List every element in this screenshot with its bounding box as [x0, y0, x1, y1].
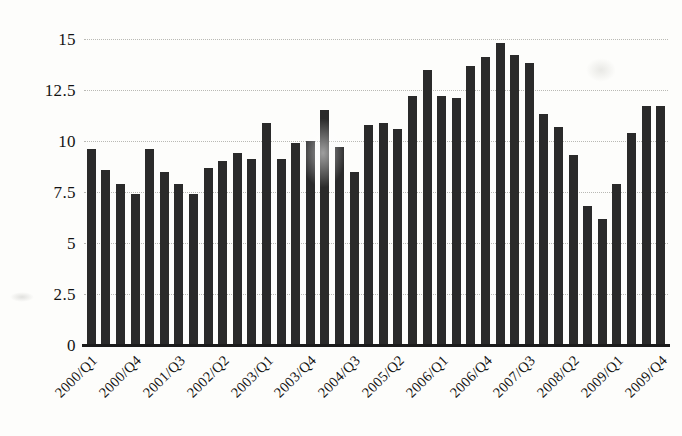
bar — [335, 147, 344, 345]
bar — [423, 70, 432, 345]
bar — [291, 143, 300, 345]
bar — [233, 153, 242, 345]
bar — [320, 110, 329, 345]
bar — [189, 194, 198, 345]
bar — [481, 57, 490, 345]
x-axis-tick-label: 2003/Q4 — [271, 352, 320, 401]
x-axis-tick-label: 2001/Q3 — [140, 352, 189, 401]
bar — [554, 127, 563, 345]
x-axis-tick-label: 2005/Q2 — [359, 352, 408, 401]
x-axis-tick-label: 2002/Q2 — [183, 352, 232, 401]
bar — [218, 161, 227, 345]
y-axis-tick-label: 10 — [14, 133, 76, 150]
y-axis-tick-label: 2.5 — [14, 286, 76, 303]
plot-area — [84, 39, 668, 345]
x-axis-tick-label: 2009/Q1 — [578, 352, 627, 401]
bar — [627, 133, 636, 345]
bar — [204, 168, 213, 345]
x-axis-tick-label: 2007/Q3 — [490, 352, 539, 401]
y-axis-tick-label: 7.5 — [14, 184, 76, 201]
bar — [160, 172, 169, 345]
bar — [379, 123, 388, 345]
x-axis-tick-label: 2000/Q4 — [96, 352, 145, 401]
bar — [393, 129, 402, 345]
bar — [510, 55, 519, 345]
bar — [145, 149, 154, 345]
bar — [174, 184, 183, 345]
bar — [277, 159, 286, 345]
y-axis-tick-label: 15 — [14, 31, 76, 48]
bar-series — [84, 39, 668, 345]
bar — [364, 125, 373, 345]
bar — [569, 155, 578, 345]
y-axis: 02.557.51012.515 — [0, 0, 76, 436]
y-axis-tick-label: 0 — [14, 337, 76, 354]
bar — [539, 114, 548, 345]
bar — [452, 98, 461, 345]
bar — [612, 184, 621, 345]
bar — [350, 172, 359, 345]
bar — [408, 96, 417, 345]
x-axis-tick-label: 2004/Q3 — [315, 352, 364, 401]
bar — [131, 194, 140, 345]
bar — [87, 149, 96, 345]
bar — [262, 123, 271, 345]
x-axis-tick-label: 2009/Q4 — [621, 352, 670, 401]
bar — [437, 96, 446, 345]
bar — [116, 184, 125, 345]
x-axis-tick-label: 2008/Q2 — [534, 352, 583, 401]
bar — [525, 63, 534, 345]
bar — [247, 159, 256, 345]
x-axis-tick-label: 2006/Q4 — [446, 352, 495, 401]
bar — [306, 141, 315, 345]
x-axis-line — [82, 344, 670, 347]
y-axis-tick-label: 12.5 — [14, 82, 76, 99]
bar — [583, 206, 592, 345]
bar — [496, 43, 505, 345]
bar — [656, 106, 665, 345]
bar — [101, 170, 110, 345]
x-axis-tick-label: 2006/Q1 — [402, 352, 451, 401]
bar — [598, 219, 607, 345]
x-axis-tick-label: 2003/Q1 — [227, 352, 276, 401]
bar — [466, 66, 475, 345]
bar-chart: 02.557.51012.515 2000/Q12000/Q42001/Q320… — [0, 0, 682, 436]
bar — [642, 106, 651, 345]
y-axis-tick-label: 5 — [14, 235, 76, 252]
